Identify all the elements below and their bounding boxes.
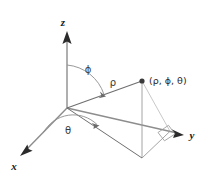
right-angle-square (158, 125, 175, 141)
rho-segment-label: ρ (110, 77, 116, 88)
projection-to-yaxis-line (142, 131, 170, 158)
y-axis-line (67, 108, 177, 133)
point-to-yaxis-plane-line (142, 81, 170, 131)
point-marker-dot (139, 78, 144, 83)
x-axis-arrowhead (20, 145, 33, 157)
z-axis-label: z (60, 16, 66, 28)
diagram-canvas: z y x ϕ θ ρ (ρ, ϕ, θ) (0, 0, 210, 177)
right-angle-marker (158, 125, 175, 141)
point-coordinate-label: (ρ, ϕ, θ) (149, 75, 187, 86)
spherical-coordinates-diagram: z y x ϕ θ ρ (ρ, ϕ, θ) (0, 0, 210, 177)
y-axis-label: y (188, 129, 195, 141)
phi-arc-arrowhead (99, 92, 106, 99)
phi-angle-label: ϕ (85, 64, 92, 75)
y-axis-arrowhead (172, 129, 185, 138)
theta-angle-label: θ (65, 125, 71, 136)
rho-segment-line (67, 81, 142, 108)
rho-segment-group (67, 81, 142, 108)
x-axis-label: x (10, 160, 17, 172)
x-axis-line (27, 108, 67, 149)
theta-arc-arrowhead (92, 123, 100, 129)
